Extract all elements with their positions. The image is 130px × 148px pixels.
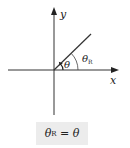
x-axis-label: x <box>110 74 117 87</box>
theta-r-label: θR <box>82 53 93 65</box>
y-axis-arrow-icon <box>51 7 57 15</box>
theta-arc <box>60 64 63 70</box>
x-axis-arrow-icon <box>111 67 119 73</box>
theta-r-arc <box>71 53 78 70</box>
formula-equals: = <box>60 127 69 140</box>
formula-box: θR = θ <box>36 122 88 145</box>
formula-lhs-subscript: R <box>51 130 56 138</box>
angle-diagram: y x θ θR θR = θ <box>0 0 130 148</box>
theta-label: θ <box>64 59 70 70</box>
formula-rhs: θ <box>73 127 80 140</box>
formula-lhs: θ <box>45 127 52 140</box>
y-axis-label: y <box>59 8 67 21</box>
